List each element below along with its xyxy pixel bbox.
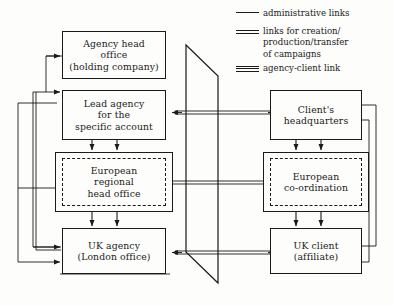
legend-item-agency-client: agency-client link [236, 63, 392, 74]
node-line: regional [94, 176, 134, 187]
node-uk-agency[interactable]: UK agency (London office) [62, 228, 166, 274]
node-line: Agency head [83, 38, 145, 49]
node-agency-head-office[interactable]: Agency head office (holding company) [62, 31, 166, 79]
node-uk-client[interactable]: UK client (affiliate) [270, 228, 362, 274]
agency-client-boundary-shape [186, 45, 218, 283]
double-line-icon [236, 26, 259, 35]
link-european-regional-to-uk-agency [92, 212, 117, 226]
link-european-coordination-to-uk-client [296, 212, 321, 226]
link-client-hq-to-european-coordination [296, 140, 321, 150]
node-european-coordination[interactable]: European co-ordination [270, 158, 362, 206]
node-line: for the [98, 109, 130, 120]
node-line: headquarters [284, 115, 349, 126]
legend: administrative links links for creation/… [236, 8, 392, 77]
node-european-regional-head-office[interactable]: European regional head office [62, 158, 166, 206]
single-line-icon [236, 8, 259, 15]
link-lead-agency-to-european-regional [92, 140, 117, 150]
cross-link-european-regional-coordination [157, 181, 272, 184]
node-clients-headquarters[interactable]: Client's headquarters [270, 90, 362, 140]
legend-item-label: links for creation/ production/transfer … [263, 26, 348, 60]
node-line: (holding company) [69, 61, 159, 72]
node-line: office [101, 49, 128, 60]
node-line: UK agency [88, 240, 140, 251]
node-line: European [91, 165, 138, 176]
triple-line-icon [236, 63, 259, 74]
node-line: Client's [298, 104, 334, 115]
link-head-office-to-lead-agency [46, 56, 62, 92]
legend-item-creation: links for creation/ production/transfer … [236, 26, 392, 60]
node-line: (affiliate) [294, 251, 338, 262]
legend-item-administrative: administrative links [236, 8, 392, 19]
legend-item-label: agency-client link [263, 63, 340, 74]
node-line: head office [87, 188, 140, 199]
node-line: UK client [293, 240, 338, 251]
diagram-canvas: Agency head office (holding company) Lea… [0, 0, 394, 305]
legend-item-label: administrative links [263, 8, 349, 19]
node-line: (London office) [77, 251, 150, 262]
node-line: specific account [75, 121, 153, 132]
node-lead-agency[interactable]: Lead agency for the specific account [62, 90, 166, 140]
cross-link-lead-agency-client-hq [172, 111, 272, 114]
node-line: Lead agency [84, 98, 145, 109]
node-line: European [293, 171, 340, 182]
node-line: co-ordination [284, 182, 348, 193]
